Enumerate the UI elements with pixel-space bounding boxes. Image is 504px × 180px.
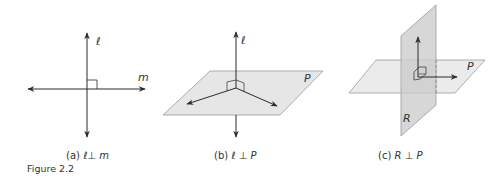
label-plane-r-c: R xyxy=(403,112,411,125)
panel-b-diagram xyxy=(163,32,323,137)
caption-a-op: ⊥ xyxy=(87,150,96,161)
caption-b-lhs: ℓ xyxy=(231,150,235,161)
label-line-l-a: ℓ xyxy=(96,35,101,48)
caption-a-prefix: (a) xyxy=(66,150,80,161)
caption-c-prefix: (c) xyxy=(378,150,391,161)
label-line-m: m xyxy=(138,71,149,84)
caption-b: (b) ℓ ⊥ P xyxy=(214,150,257,161)
caption-a: (a) ℓ⊥ m xyxy=(66,150,109,161)
panel-c-diagram xyxy=(349,5,485,136)
plane-p xyxy=(163,71,323,115)
caption-b-op: ⊥ xyxy=(239,150,248,161)
caption-a-rhs: m xyxy=(99,150,109,161)
caption-c-lhs: R xyxy=(395,150,402,161)
label-line-l-b: ℓ xyxy=(241,34,246,47)
right-angle-marker xyxy=(87,80,97,89)
caption-c-rhs: P xyxy=(417,150,423,161)
panel-a-diagram xyxy=(28,33,145,137)
label-plane-p-b: P xyxy=(304,72,311,85)
caption-b-prefix: (b) xyxy=(214,150,228,161)
caption-c: (c) R ⊥ P xyxy=(378,150,423,161)
figure-label: Figure 2.2 xyxy=(27,163,74,174)
caption-b-rhs: P xyxy=(251,150,257,161)
caption-c-op: ⊥ xyxy=(405,150,414,161)
label-plane-p-c: P xyxy=(467,60,474,73)
